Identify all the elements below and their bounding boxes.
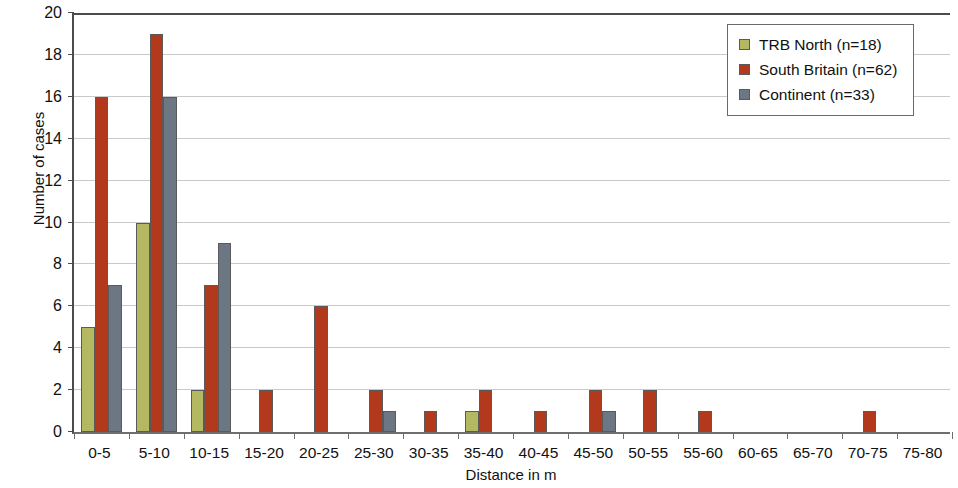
x-tick-label: 50-55 (628, 444, 668, 462)
gridline (74, 263, 950, 264)
chart-legend: TRB North (n=18)South Britain (n=62)Cont… (727, 24, 914, 116)
x-tick-label: 45-50 (573, 444, 613, 462)
x-tick-label: 0-5 (88, 444, 110, 462)
x-tick-mark (678, 432, 679, 439)
gridline (74, 222, 950, 223)
x-tick-mark (239, 432, 240, 439)
bar (479, 390, 493, 432)
bar (81, 327, 95, 432)
y-tick-mark (68, 389, 74, 390)
bar (424, 411, 438, 432)
y-tick-mark (68, 12, 74, 13)
bar (465, 411, 479, 432)
y-tick-label: 12 (2, 172, 62, 190)
x-tick-mark (513, 432, 514, 439)
legend-swatch-icon (739, 64, 750, 75)
bar (163, 97, 177, 432)
y-tick-label: 6 (2, 297, 62, 315)
y-tick-mark (68, 138, 74, 139)
x-tick-mark (184, 432, 185, 439)
x-tick-mark (623, 432, 624, 439)
legend-item: TRB North (n=18) (739, 32, 897, 57)
y-tick-mark (68, 305, 74, 306)
bar-chart: Number of cases Distance in m 0246810121… (0, 0, 958, 488)
x-tick-label: 55-60 (683, 444, 723, 462)
x-tick-label: 15-20 (244, 444, 284, 462)
y-tick-mark (68, 180, 74, 181)
y-tick-mark (68, 54, 74, 55)
legend-label: TRB North (n=18) (759, 36, 882, 54)
y-tick-mark (68, 347, 74, 348)
x-tick-mark (129, 432, 130, 439)
legend-item: Continent (n=33) (739, 82, 897, 107)
x-tick-label: 70-75 (848, 444, 888, 462)
bar (369, 390, 383, 432)
x-tick-mark (842, 432, 843, 439)
y-tick-label: 18 (2, 46, 62, 64)
x-tick-label: 35-40 (464, 444, 504, 462)
y-tick-label: 10 (2, 214, 62, 232)
bar (589, 390, 603, 432)
legend-label: Continent (n=33) (759, 86, 875, 104)
bar (218, 243, 232, 432)
x-tick-label: 30-35 (409, 444, 449, 462)
y-tick-label: 20 (2, 4, 62, 22)
x-tick-mark (348, 432, 349, 439)
x-tick-label: 20-25 (299, 444, 339, 462)
y-tick-label: 16 (2, 88, 62, 106)
x-tick-mark (74, 432, 75, 439)
bar (314, 306, 328, 432)
x-tick-mark (458, 432, 459, 439)
y-tick-mark (68, 222, 74, 223)
y-tick-mark (68, 96, 74, 97)
bar (863, 411, 877, 432)
y-tick-label: 2 (2, 381, 62, 399)
bar (643, 390, 657, 432)
y-tick-mark (68, 263, 74, 264)
bar (534, 411, 548, 432)
legend-item: South Britain (n=62) (739, 57, 897, 82)
x-tick-label: 65-70 (793, 444, 833, 462)
x-tick-mark (733, 432, 734, 439)
y-tick-label: 4 (2, 339, 62, 357)
x-tick-mark (568, 432, 569, 439)
bar (108, 285, 122, 432)
bar (602, 411, 616, 432)
y-tick-label: 14 (2, 130, 62, 148)
x-tick-label: 25-30 (354, 444, 394, 462)
x-tick-label: 10-15 (189, 444, 229, 462)
x-tick-label: 5-10 (139, 444, 170, 462)
x-tick-label: 75-80 (903, 444, 943, 462)
y-tick-label: 8 (2, 255, 62, 273)
x-tick-mark (294, 432, 295, 439)
legend-label: South Britain (n=62) (759, 61, 897, 79)
bar (191, 390, 205, 432)
x-tick-mark (403, 432, 404, 439)
gridline (74, 180, 950, 181)
x-tick-label: 40-45 (519, 444, 559, 462)
legend-swatch-icon (739, 89, 750, 100)
bar (259, 390, 273, 432)
bar (95, 97, 109, 432)
y-tick-label: 0 (2, 423, 62, 441)
x-tick-mark (897, 432, 898, 439)
x-axis-title: Distance in m (72, 466, 950, 483)
bar (383, 411, 397, 432)
bar (698, 411, 712, 432)
gridline (74, 138, 950, 139)
bar (150, 34, 164, 432)
x-tick-label: 60-65 (738, 444, 778, 462)
legend-swatch-icon (739, 39, 750, 50)
bar (136, 223, 150, 433)
x-tick-mark (787, 432, 788, 439)
bar (204, 285, 218, 432)
x-tick-mark (952, 432, 953, 439)
